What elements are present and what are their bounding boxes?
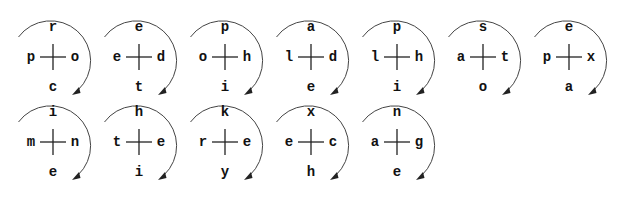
letter-top: p [217, 19, 233, 35]
letter-right: x [583, 49, 599, 65]
letter-right: e [239, 134, 255, 150]
cross-glyph: x e c h [266, 92, 366, 192]
cross-glyph: i m n e [8, 92, 108, 192]
letter-top: r [45, 19, 61, 35]
letter-right: n [67, 134, 83, 150]
letter-right: d [153, 49, 169, 65]
letter-right: t [497, 49, 513, 65]
letter-right: o [67, 49, 83, 65]
letter-top: x [303, 104, 319, 120]
letter-left: l [367, 49, 383, 65]
letter-top: a [303, 19, 319, 35]
letter-left: t [109, 134, 125, 150]
letter-bottom: a [561, 79, 577, 95]
letter-left: e [281, 134, 297, 150]
letter-right: e [153, 134, 169, 150]
letter-bottom: y [217, 164, 233, 180]
letter-bottom: e [45, 164, 61, 180]
cross-glyph: k r e y [180, 92, 280, 192]
letter-top: e [131, 19, 147, 35]
cross-glyph: n a g e [352, 92, 452, 192]
letter-top: k [217, 104, 233, 120]
letter-bottom: o [475, 79, 491, 95]
letter-left: o [195, 49, 211, 65]
letter-left: a [453, 49, 469, 65]
letter-right: d [325, 49, 341, 65]
letter-left: p [539, 49, 555, 65]
letter-left: e [109, 49, 125, 65]
cross-glyph: h t e i [94, 92, 194, 192]
letter-left: r [195, 134, 211, 150]
letter-top: s [475, 19, 491, 35]
letter-top: n [389, 104, 405, 120]
cross-glyph: s a t o [438, 7, 538, 107]
letter-top: p [389, 19, 405, 35]
letter-top: i [45, 104, 61, 120]
letter-right: c [325, 134, 341, 150]
letter-right: h [411, 49, 427, 65]
letter-left: l [281, 49, 297, 65]
letter-top: h [131, 104, 147, 120]
letter-right: g [411, 134, 427, 150]
letter-bottom: i [131, 164, 147, 180]
letter-bottom: h [303, 164, 319, 180]
letter-top: e [561, 19, 577, 35]
letter-left: m [23, 134, 39, 150]
letter-right: h [239, 49, 255, 65]
cross-glyph: e p x a [524, 7, 624, 107]
letter-left: a [367, 134, 383, 150]
letter-bottom: e [389, 164, 405, 180]
letter-left: p [23, 49, 39, 65]
